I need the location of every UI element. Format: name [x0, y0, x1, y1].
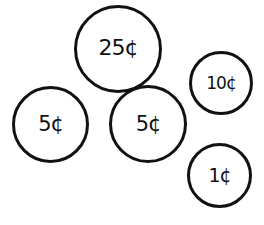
coin-penny: 1¢ — [187, 143, 252, 208]
coin-label: 5¢ — [38, 114, 63, 135]
coin-label: 5¢ — [136, 114, 161, 135]
coin-dime: 10¢ — [189, 51, 253, 115]
coin-nickel-middle: 5¢ — [109, 85, 187, 163]
coin-label: 10¢ — [206, 75, 235, 92]
coin-label: 1¢ — [208, 166, 230, 185]
coin-quarter: 25¢ — [74, 5, 162, 93]
coin-label: 25¢ — [99, 37, 138, 59]
coin-nickel-left: 5¢ — [12, 86, 89, 163]
